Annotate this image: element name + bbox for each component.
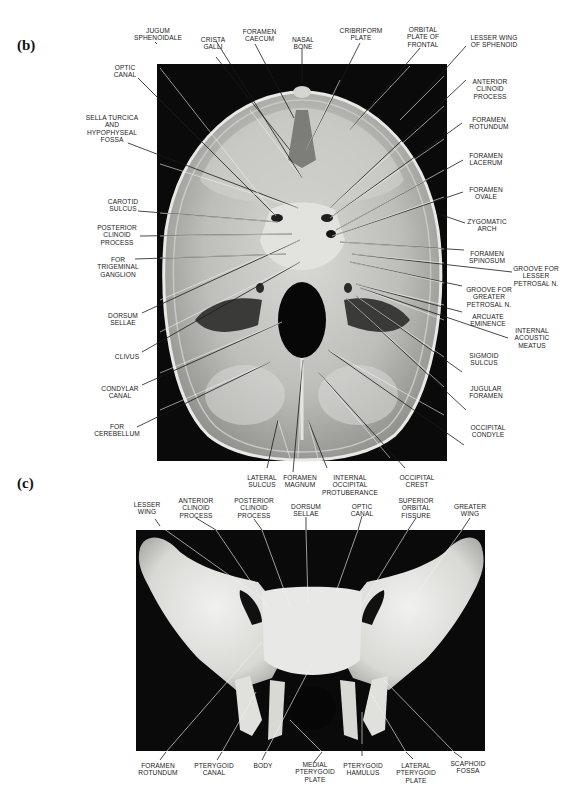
label-for-trigeminal-ganglion: FOR TRIGEMINAL GANGLION	[94, 256, 142, 278]
label-optic-canal: OPTIC CANAL	[110, 64, 140, 79]
label-zygomatic-arch: ZYGOMATIC ARCH	[464, 218, 510, 233]
label-c-pterygoid-canal: PTERYGOID CANAL	[192, 762, 236, 777]
label-for-cerebellum: FOR CEREBELLUM	[94, 423, 140, 438]
label-c-optic-canal: OPTIC CANAL	[347, 503, 377, 518]
label-anterior-clinoid-process: ANTERIOR CLINOID PROCESS	[467, 78, 513, 100]
label-c-greater-wing: GREATER WING	[452, 503, 488, 518]
label-c-pterygoid-hamulus: PTERYGOID HAMULUS	[342, 762, 384, 777]
label-posterior-clinoid-process: POSTERIOR CLINOID PROCESS	[96, 224, 138, 246]
label-c-body: BODY	[248, 762, 278, 769]
label-clivus: CLIVUS	[112, 353, 142, 360]
label-c-foramen-rotundum: FORAMEN ROTUNDUM	[134, 762, 182, 777]
label-arcuate-eminence: ARCUATE EMINENCE	[466, 313, 510, 328]
label-orbital-plate-of-frontal: ORBITAL PLATE OF FRONTAL	[398, 26, 448, 48]
label-foramen-rotundum: FORAMEN ROTUNDUM	[466, 116, 512, 131]
label-c-lateral-pterygoid-plate: LATERAL PTERYGOID PLATE	[396, 762, 436, 784]
label-groove-greater-petrosal: GROOVE FOR GREATER PETROSAL N.	[464, 286, 514, 308]
label-carotid-sulcus: CAROTID SULCUS	[106, 198, 140, 213]
label-c-dorsum-sellae: DORSUM SELLAE	[288, 503, 324, 518]
label-groove-lesser-petrosal: GROOVE FOR LESSER PETROSAL N.	[510, 265, 562, 287]
label-internal-occipital-protuberance: INTERNAL OCCIPITAL PROTUBERANCE	[318, 474, 382, 496]
label-sigmoid-sulcus: SIGMOID SULCUS	[466, 352, 502, 367]
label-internal-acoustic-meatus: INTERNAL ACOUSTIC MEATUS	[510, 327, 554, 349]
label-c-anterior-clinoid-process: ANTERIOR CLINOID PROCESS	[175, 497, 217, 519]
label-foramen-ovale: FORAMEN OVALE	[465, 186, 507, 201]
label-dorsum-sellae: DORSUM SELLAE	[106, 312, 140, 327]
label-c-scaphoid-fossa: SCAPHOID FOSSA	[450, 760, 486, 775]
label-cribriform-plate: CRIBRIFORM PLATE	[330, 27, 392, 42]
label-sella-turcica: SELLA TURCICA AND HYPOPHYSEAL FOSSA	[82, 114, 142, 144]
label-occipital-condyle: OCCIPITAL CONDYLE	[467, 424, 509, 439]
label-foramen-lacerum: FORAMEN LACERUM	[465, 152, 507, 167]
label-occipital-crest: OCCIPITAL CREST	[395, 474, 439, 489]
label-jugular-foramen: JUGULAR FORAMEN	[466, 385, 506, 400]
label-jugum-sphenoidale: JUGUM SPHENOIDALE	[123, 27, 193, 42]
label-crista-galli: CRISTA GALLI	[188, 36, 238, 51]
label-nasal-bone: NASAL BONE	[283, 36, 323, 51]
label-condylar-canal: CONDYLAR CANAL	[100, 385, 140, 400]
label-foramen-spinosum: FORAMEN SPINOSUM	[465, 250, 509, 265]
label-foramen-caecum: FORAMEN CAECUM	[232, 28, 287, 43]
label-lateral-sulcus: LATERAL SULCUS	[242, 474, 282, 489]
label-c-superior-orbital-fissure: SUPERIOR ORBITAL FISSURE	[396, 497, 436, 519]
label-c-lesser-wing: LESSER WING	[130, 501, 164, 516]
label-c-posterior-clinoid-process: POSTERIOR CLINOID PROCESS	[233, 497, 275, 519]
label-foramen-magnum: FORAMEN MAGNUM	[278, 474, 322, 489]
label-lesser-wing-of-sphenoid: LESSER WING OF SPHENOID	[462, 34, 526, 49]
label-c-medial-pterygoid-plate: MEDIAL PTERYGOID PLATE	[293, 761, 337, 783]
